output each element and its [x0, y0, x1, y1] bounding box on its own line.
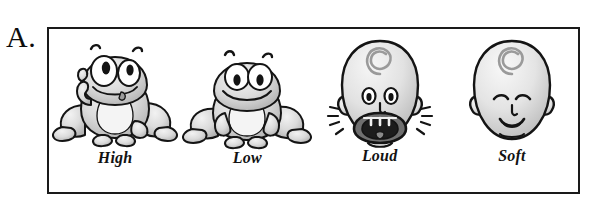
cell-label-soft: Soft	[498, 148, 525, 164]
baby-head-shouting-icon	[314, 33, 446, 151]
cell-soft: Soft	[446, 29, 578, 192]
cell-label-loud: Loud	[362, 148, 397, 164]
panel-letter: A.	[6, 22, 36, 52]
cell-high: High	[49, 29, 181, 192]
frog-pointing-up-icon	[49, 35, 181, 153]
pitch-volume-cell-row: High	[49, 29, 578, 192]
cell-label-high: High	[98, 150, 133, 166]
figure-panel-a: A.	[0, 0, 595, 204]
cell-loud: Loud	[314, 29, 446, 192]
cell-label-low: Low	[233, 150, 262, 166]
baby-head-calm-icon	[446, 33, 578, 151]
frog-sitting-icon	[181, 35, 313, 153]
cell-low: Low	[181, 29, 313, 192]
panel-border-box: High	[47, 27, 580, 194]
